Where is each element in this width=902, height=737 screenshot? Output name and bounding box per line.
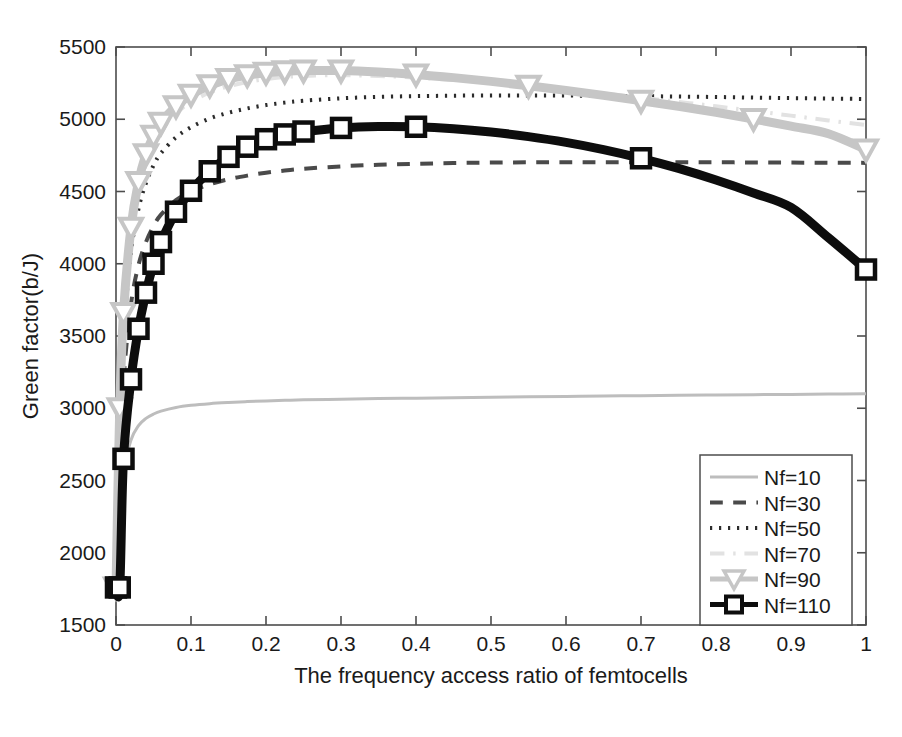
- x-tick-label: 1: [860, 632, 872, 655]
- series-marker-square: [332, 119, 350, 137]
- series-marker-triangle: [120, 219, 142, 239]
- x-tick-label: 0.7: [626, 632, 655, 655]
- series-marker-square: [276, 125, 294, 143]
- series-marker-square: [632, 149, 650, 167]
- x-tick-label: 0.3: [326, 632, 355, 655]
- y-tick-label: 3500: [59, 324, 106, 347]
- x-tick-label: 0.2: [251, 632, 280, 655]
- y-tick-label: 5000: [59, 107, 106, 130]
- legend-entry-label: Nf=50: [764, 517, 821, 540]
- legend-entry-label: Nf=30: [764, 492, 821, 515]
- legend-entry-label: Nf=90: [764, 568, 821, 591]
- series-marker-square: [130, 320, 148, 338]
- series-marker-square: [152, 233, 170, 251]
- series-marker-square: [137, 284, 155, 302]
- series-marker-triangle: [330, 62, 352, 82]
- legend-marker-square: [726, 597, 742, 613]
- series-marker-triangle: [743, 110, 765, 130]
- y-tick-label: 2000: [59, 541, 106, 564]
- series-marker-square: [857, 261, 875, 279]
- legend-entry-label: Nf=70: [764, 543, 821, 566]
- y-tick-label: 2500: [59, 469, 106, 492]
- series-marker-square: [201, 162, 219, 180]
- series-marker-square: [238, 138, 256, 156]
- series-marker-triangle: [293, 62, 315, 82]
- x-tick-label: 0.1: [176, 632, 205, 655]
- series-marker-triangle: [128, 173, 150, 193]
- series-marker-square: [295, 123, 313, 141]
- series-marker-square: [111, 578, 129, 596]
- y-tick-label: 1500: [59, 613, 106, 636]
- series-marker-square: [407, 118, 425, 136]
- series-marker-triangle: [405, 65, 427, 85]
- series-marker-square: [122, 370, 140, 388]
- x-tick-label: 0.6: [551, 632, 580, 655]
- series-marker-square: [167, 203, 185, 221]
- series-marker-square: [220, 148, 238, 166]
- legend: Nf=10Nf=30Nf=50Nf=70Nf=90Nf=110: [700, 455, 852, 625]
- x-tick-label: 0.5: [476, 632, 505, 655]
- x-tick-label: 0.8: [701, 632, 730, 655]
- x-tick-label: 0.4: [401, 632, 431, 655]
- y-tick-label: 5500: [59, 35, 106, 58]
- y-tick-label: 4500: [59, 180, 106, 203]
- y-tick-label: 4000: [59, 252, 106, 275]
- series-marker-triangle: [855, 141, 877, 161]
- series-marker-square: [115, 450, 133, 468]
- chart-canvas: 00.10.20.30.40.50.60.70.80.9115002000250…: [0, 0, 902, 737]
- x-tick-label: 0.9: [776, 632, 805, 655]
- legend-entry-label: Nf=110: [764, 594, 831, 617]
- x-axis-title: The frequency access ratio of femtocells: [294, 663, 688, 688]
- series-marker-square: [257, 130, 275, 148]
- series-marker-square: [182, 182, 200, 200]
- legend-entry-label: Nf=10: [764, 466, 821, 489]
- y-tick-label: 3000: [59, 396, 106, 419]
- series-marker-triangle: [218, 70, 240, 90]
- line-chart: 00.10.20.30.40.50.60.70.80.9115002000250…: [0, 0, 902, 737]
- x-tick-label: 0: [110, 632, 122, 655]
- series-marker-square: [145, 255, 163, 273]
- y-axis-title: Green factor(b/J): [18, 253, 43, 419]
- series-marker-triangle: [630, 92, 652, 112]
- figure-container: 00.10.20.30.40.50.60.70.80.9115002000250…: [0, 0, 902, 737]
